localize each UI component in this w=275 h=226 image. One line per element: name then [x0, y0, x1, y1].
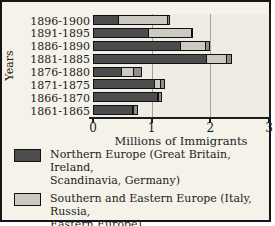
bar-segment [158, 92, 162, 102]
bar-row-1871-1875 [93, 79, 165, 89]
x-tick-label: 0 [89, 122, 97, 134]
bar-segment [93, 79, 155, 89]
bar-segment [206, 54, 227, 64]
bar-segment [180, 41, 206, 51]
bar-segment [191, 28, 193, 38]
y-tick-label: 1881-1885 [18, 54, 90, 65]
bar-segment [148, 28, 192, 38]
y-tick-label: 1861-1865 [18, 106, 90, 117]
y-tick-label: 1871-1875 [18, 80, 90, 91]
legend-label: Northern Europe (Great Britain, Ireland,… [50, 149, 264, 188]
y-tick-label: 1876-1880 [18, 67, 90, 78]
x-tick-label: 3 [265, 122, 273, 134]
bar-segment [205, 41, 210, 51]
legend-item: Northern Europe (Great Britain, Ireland,… [14, 149, 264, 188]
bar-row-1861-1865 [93, 105, 138, 115]
x-axis-line [89, 117, 271, 119]
x-tick-label: 2 [207, 122, 215, 134]
x-axis-title: Millions of Immigrants [115, 134, 248, 148]
legend-swatch [14, 149, 41, 162]
legend-swatch [14, 193, 41, 206]
bar-segment [93, 67, 122, 77]
plot-area [93, 14, 271, 117]
legend-label: Southern and Eastern Europe (Italy, Russ… [50, 193, 264, 226]
y-tick-label: 1886-1890 [18, 41, 90, 52]
y-axis-labels: 1896-19001891-18951886-18901881-18851876… [18, 14, 90, 117]
bar-row-1891-1895 [93, 28, 193, 38]
y-axis-title: Years [3, 39, 16, 93]
bar-segment [93, 28, 149, 38]
legend-item: Southern and Eastern Europe (Italy, Russ… [14, 193, 264, 226]
bar-segment [93, 54, 207, 64]
y-tick-label: 1891-1895 [18, 28, 90, 39]
bar-segment [226, 54, 232, 64]
bar-row-1866-1870 [93, 92, 162, 102]
y-tick-label: 1896-1900 [18, 16, 90, 27]
bar-row-1886-1890 [93, 41, 210, 51]
y-tick-label: 1866-1870 [18, 93, 90, 104]
legend: Northern Europe (Great Britain, Ireland,… [14, 149, 264, 226]
bar-row-1876-1880 [93, 67, 142, 77]
bar-row-1896-1900 [93, 15, 170, 25]
chart-card: Years 1896-19001891-18951886-18901881-18… [0, 0, 271, 222]
bar-segment [93, 41, 181, 51]
bar-segment [133, 67, 142, 77]
bar-segment [160, 79, 166, 89]
bar-segment [93, 92, 158, 102]
bar-row-1881-1885 [93, 54, 232, 64]
bar-segment [118, 15, 168, 25]
x-tick-label: 1 [148, 122, 156, 134]
bar-segment [93, 105, 133, 115]
bar-segment [93, 15, 119, 25]
bar-segment [167, 15, 170, 25]
bar-segment [133, 105, 138, 115]
gridline-x2 [210, 14, 211, 117]
